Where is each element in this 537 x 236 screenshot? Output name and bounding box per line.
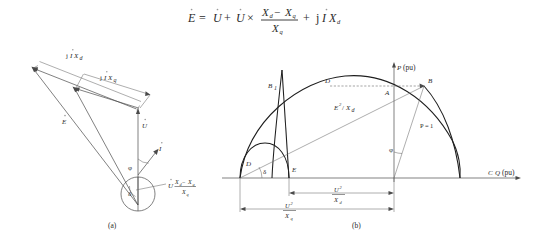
E2-slash: /: [342, 104, 344, 112]
dot-U-expr: [170, 179, 172, 181]
label-jIXq-sub: q: [114, 77, 117, 83]
dot-I: [326, 9, 328, 11]
caption-a: (a): [108, 221, 117, 230]
equation-plus-2: +: [303, 11, 310, 25]
label-point-C: C: [488, 169, 493, 177]
dot-U2: [240, 9, 242, 11]
figure-background: [0, 0, 537, 236]
equation-term1: U: [213, 11, 223, 25]
label-jIXd-j: j: [65, 52, 68, 60]
dot-label-U: [144, 119, 146, 121]
label-jIXd-X: X: [73, 52, 79, 60]
axis-Q-symbol: Q: [495, 169, 500, 177]
equation-term2: U: [236, 11, 246, 25]
label-jIXq-X: X: [107, 74, 113, 82]
label-point-B1-sub: 1: [274, 85, 277, 91]
equation-equals: =: [199, 11, 206, 25]
label-point-D: D: [324, 77, 330, 85]
equation-plus-1: +: [224, 11, 231, 25]
dot-label-E: [64, 115, 66, 117]
figure-canvas: E = U + U × X d − X q X q + j I X d: [0, 0, 537, 236]
U-expr-num-xq-sub: q: [193, 182, 195, 187]
label-jIXq-j: j: [99, 74, 102, 82]
axis-P-unit: (pu): [403, 63, 416, 72]
label-point-A: A: [384, 89, 390, 97]
equation-reactance: X: [328, 11, 337, 25]
dot-jIXq-I: [106, 71, 108, 73]
equation-lhs: E: [187, 11, 196, 25]
label-P-equals-1: P = 1: [420, 122, 433, 129]
dot-label-I: [161, 142, 163, 144]
U-expr-den-sub: q: [187, 192, 189, 197]
fraction-minus: −: [274, 6, 280, 18]
label-phi-a: φ: [128, 164, 132, 172]
label-point-E: E: [291, 166, 297, 174]
label-phi-b: φ: [389, 146, 393, 154]
label-point-B1: B: [268, 82, 273, 90]
caption-b: (b): [352, 221, 361, 230]
axis-Q-unit: (pu): [502, 168, 515, 177]
dot-jIXd-I: [72, 49, 74, 51]
E2-react: X: [345, 104, 351, 112]
equation-times: ×: [247, 11, 254, 25]
dot-E: [191, 9, 193, 11]
label-point-B: B: [428, 77, 433, 85]
U-expr-num-xd: X: [174, 179, 179, 185]
U-expr-den: X: [181, 189, 186, 195]
label-E: E: [61, 118, 67, 126]
equation-j: j: [315, 11, 319, 25]
axis-P-symbol: P: [396, 64, 402, 72]
label-point-C1: D: [245, 160, 251, 168]
U-expr-num-xq: X: [187, 179, 192, 185]
dot-U1: [217, 9, 219, 11]
